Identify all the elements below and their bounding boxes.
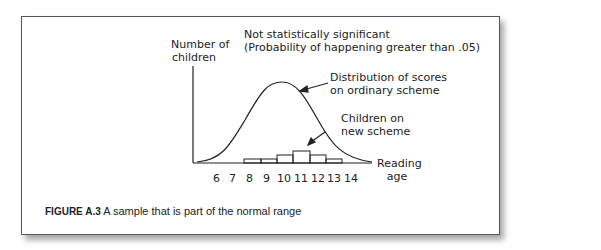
arrow-curve [300, 83, 328, 92]
y-label-line2: children [171, 51, 217, 64]
arrow-hist [308, 132, 325, 145]
y-axis-label: Number of children [171, 38, 217, 64]
x-label-line1: Reading [377, 157, 417, 170]
annotation-hist-line1: Children on [341, 112, 410, 125]
annotation-hist-line2: new scheme [341, 125, 410, 138]
x-tick: 11 [294, 172, 308, 185]
x-tick: 8 [246, 172, 253, 185]
x-tick: 14 [344, 172, 358, 185]
figure-caption: FIGURE A.3 A sample that is part of the … [45, 205, 301, 217]
y-label-line1: Number of [171, 38, 217, 51]
x-tick: 13 [327, 172, 341, 185]
annotation-curve-line2: on ordinary scheme [330, 84, 447, 97]
x-label-line2: age [377, 170, 417, 183]
annotation-curve: Distribution of scores on ordinary schem… [330, 71, 447, 97]
caption-label: FIGURE A.3 [45, 206, 101, 217]
histogram [244, 151, 342, 163]
title-line2: (Probability of happening greater than .… [244, 41, 480, 54]
x-tick: 12 [311, 172, 325, 185]
x-tick: 7 [229, 172, 236, 185]
x-axis-label: Reading age [377, 157, 417, 183]
caption-text: A sample that is part of the normal rang… [103, 205, 301, 217]
title-line1: Not statistically significant [244, 28, 480, 41]
x-tick: 6 [213, 172, 220, 185]
annotation-curve-line1: Distribution of scores [330, 71, 447, 84]
x-tick: 9 [263, 172, 270, 185]
x-tick: 10 [277, 172, 291, 185]
chart-title: Not statistically significant (Probabili… [244, 28, 480, 54]
annotation-hist: Children on new scheme [341, 112, 410, 138]
